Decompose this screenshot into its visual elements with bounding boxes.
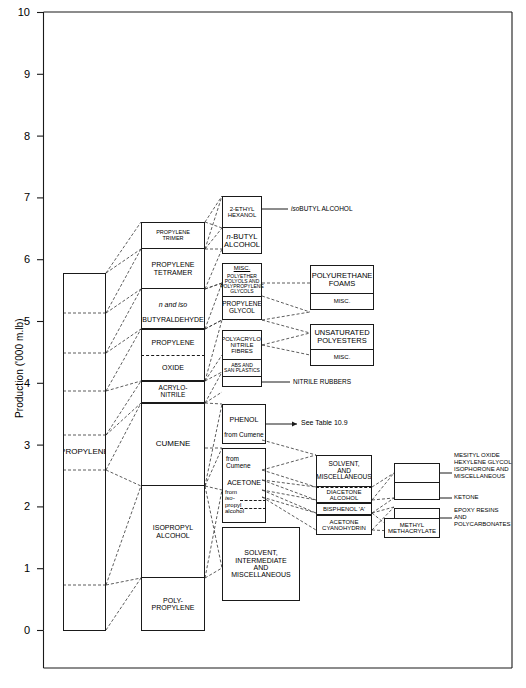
y-tick-5: 5 [8,316,30,327]
node-propylene-glycol: PROPYLENE GLYCOL [222,296,262,320]
butyraldehyde-prefix: n and iso [159,301,187,308]
node-misc-box-outline [222,263,262,296]
node-acetone-cyanohydrin: ACETONE CYANOHYDRIN [316,515,372,535]
node-n-butyl-alcohol: n-BUTYL ALCOHOL [222,228,262,254]
figure-canvas: Production ('000 m.lb) 10 9 8 7 6 5 4 3 … [0,0,526,688]
node-isopropyl-alcohol: ISOPROPYL ALCOHOL [141,486,205,578]
node-propylene-oxide-top: PROPYLENE [141,329,205,355]
node-solvent-and-miscellaneous: SOLVENT, AND MISCELLANEOUS [316,455,372,487]
node-polyacrylonitrile-fibres: POLYACRYLO- NITRILE FIBRES [222,330,262,360]
y-tick-0: 0 [8,625,30,636]
butyraldehyde-main: BUTYRALDEHYDE [142,316,203,323]
y-tick-6: 6 [8,254,30,265]
acetone-inner-dashed-divider-2 [240,508,266,509]
annotation-nitrile-rubbers: NITRILE RUBBERS [293,378,351,385]
node-bisphenol-a: BISPHENOL 'A' [316,503,372,515]
phenol-source: from Cumene [224,431,263,438]
node-nitrile-rubbers-tie [222,377,262,387]
annotation-ketone: KETONE [454,494,479,501]
node-butyraldehyde: n and iso BUTYRALDEHYDE [141,289,205,329]
node-propylene-oxide-bottom: OXIDE [141,355,205,381]
annotation-mesityl-oxide: MESITYL OXIDE HEXYLENE GLYCOL ISOPHORONE… [454,452,512,480]
node-acetone-outline [222,448,266,523]
node-phenol: PHENOL from Cumene [222,404,266,444]
y-tick-4: 4 [8,378,30,389]
annotation-epoxy-resins: EPOXY RESINS AND POLYCARBONATES [454,507,510,528]
acetone-inner-dashed-divider [240,500,266,501]
phenol-label: PHENOL [230,416,259,423]
node-ketone-box [394,483,440,500]
y-tick-9: 9 [8,69,30,80]
y-tick-8: 8 [8,131,30,142]
node-mesityl-oxide-box [394,463,440,483]
y-tick-7: 7 [8,192,30,203]
node-propylene: PROPYLENE [63,273,106,631]
y-tick-3: 3 [8,440,30,451]
y-tick-2: 2 [8,501,30,512]
node-propylene-tetramer: PROPYLENE TETRAMER [141,249,205,289]
y-tick-1: 1 [8,563,30,574]
node-misc-polyesters: MISC. [310,350,374,366]
annotation-see-table: See Table 10.9 [301,419,348,427]
node-propylene-trimer: PROPYLENE TRIMER [141,222,205,249]
node-solvent-intermediate: SOLVENT, INTERMEDIATE AND MISCELLANEOUS [222,527,300,601]
node-unsaturated-polyesters: UNSATURATED POLYESTERS [310,324,374,350]
node-cumene: CUMENE [141,403,205,486]
node-abs-san-plastics: ABS AND SAN PLASTICS [222,360,262,377]
node-methyl-methacrylate: METHYL METHACRYLATE [384,518,440,538]
node-2-ethyl-hexanol: 2-ETHYL HEXANOL [222,196,262,228]
node-diacetone-alcohol: DIACETONE ALCOHOL [316,487,372,503]
y-axis-label: Production ('000 m.lb) [14,318,25,418]
node-misc-polyurethane: MISC. [310,294,374,310]
y-tick-10: 10 [8,7,30,18]
node-polyurethane-foams: POLYURETHANE FOAMS [310,265,374,294]
node-acrylonitrile: ACRYLO- NITRILE [141,381,205,403]
node-polypropylene: POLY- PROPYLENE [141,578,205,631]
annotation-isobutyl-alcohol: isoBUTYL ALCOHOL [291,205,353,212]
